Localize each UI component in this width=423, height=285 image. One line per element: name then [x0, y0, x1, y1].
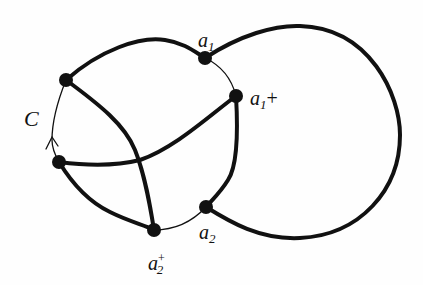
label-c-text: C — [24, 106, 39, 131]
node-a2-plus — [147, 223, 161, 237]
diagram-canvas: C a1 a1+ a2 a+2 — [0, 0, 423, 285]
edge-loop-a1-a2 — [205, 26, 400, 238]
label-c: C — [24, 108, 39, 130]
edge-p1-a1 — [66, 39, 205, 80]
label-a2-plus: a+2 — [148, 252, 163, 276]
node-a1-plus — [229, 89, 243, 103]
label-a2-base: a — [199, 221, 209, 243]
label-a1p-suffix: + — [267, 87, 278, 109]
edge-a1p-a2 — [206, 96, 237, 207]
label-a2p-sub: 2 — [157, 262, 164, 277]
node-a2 — [199, 200, 213, 214]
label-a1-sub: 1 — [208, 39, 215, 54]
node-p1 — [59, 73, 73, 87]
edge-p4-a2p — [59, 162, 154, 230]
label-a1-base: a — [198, 29, 208, 51]
edge-c-p1-p4 — [52, 80, 66, 162]
edge-p4-a1p — [59, 96, 236, 164]
edge-p1-a2p — [66, 80, 154, 230]
label-a2-sub: 2 — [209, 231, 216, 246]
label-a2: a2 — [199, 222, 216, 245]
edge-a1-a1p — [205, 58, 236, 96]
label-a1-plus: a1+ — [250, 88, 278, 111]
label-a1: a1 — [198, 30, 215, 53]
label-a1p-base: a — [250, 87, 260, 109]
node-p4 — [52, 155, 66, 169]
